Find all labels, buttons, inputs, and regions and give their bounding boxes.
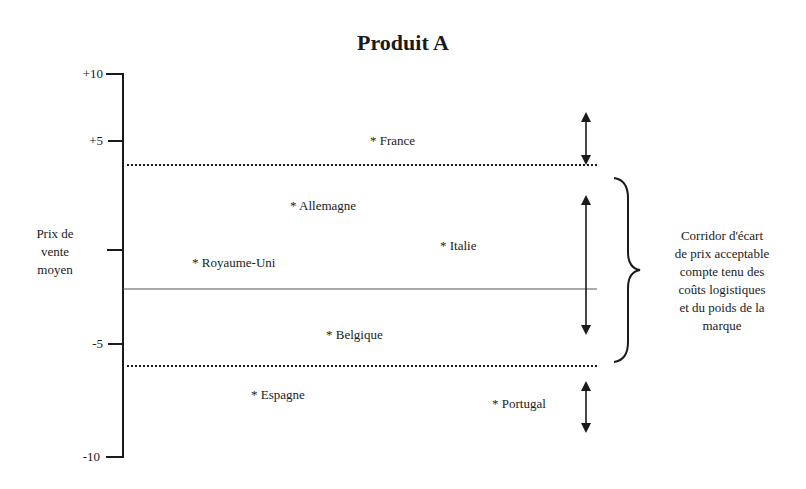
tick-label-plus-5: +5: [63, 133, 103, 149]
point-belgique: * Belgique: [326, 327, 383, 343]
point-royaume-uni: * Royaume-Uni: [192, 255, 275, 271]
point-france: * France: [370, 133, 415, 149]
point-espagne: * Espagne: [251, 387, 305, 403]
tick-label-plus-10: +10: [63, 66, 103, 82]
point-allemagne: * Allemagne: [290, 198, 356, 214]
point-portugal: * Portugal: [492, 396, 546, 412]
tick-label-minus-5: -5: [63, 336, 103, 352]
point-italie: * Italie: [440, 238, 476, 254]
curly-brace-icon: [614, 178, 640, 362]
corridor-annotation: Corridor d'écart de prix acceptable comp…: [644, 227, 800, 335]
y-axis-label: Prix de vente moyen: [20, 225, 90, 279]
y-axis: [106, 74, 124, 457]
tick-label-minus-10: -10: [60, 449, 100, 465]
